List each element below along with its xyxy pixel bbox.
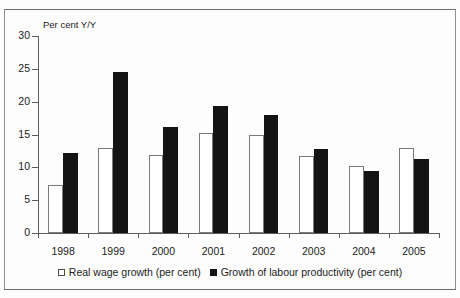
bar-2001-labour-productivity [213,106,228,233]
bar-1998-labour-productivity [63,153,78,233]
x-axis-tick-label: 2003 [289,245,339,257]
x-axis-tick [138,233,139,238]
x-axis-tick-label: 1999 [88,245,138,257]
bar-2002-real-wage-growth [249,135,264,233]
x-axis-tick [339,233,340,238]
bar-1999-labour-productivity [113,72,128,233]
bar-2002-labour-productivity [264,115,279,233]
y-axis-tick-label: 5 [8,193,30,205]
bar-2004-labour-productivity [364,171,379,233]
open-square-icon [58,269,65,276]
bar-1998-real-wage-growth [48,185,63,233]
x-axis-tick [38,233,39,238]
bar-2003-real-wage-growth [299,156,314,233]
legend-label-labour-productivity: Growth of labour productivity (per cent) [221,266,403,278]
x-axis-tick [188,233,189,238]
x-axis-tick [289,233,290,238]
bar-2005-real-wage-growth [399,148,414,233]
x-axis-tick [439,233,440,238]
x-axis-tick-label: 2000 [138,245,188,257]
legend-item-real-wage-growth: Real wage growth (per cent) [58,266,201,278]
legend-label-real-wage-growth: Real wage growth (per cent) [69,266,201,278]
chart-plot-area: Per cent Y/Y 051015202530 19981999200020… [0,0,460,298]
chart-legend: Real wage growth (per cent) Growth of la… [0,266,460,278]
bar-2001-real-wage-growth [199,133,214,233]
legend-item-labour-productivity: Growth of labour productivity (per cent) [210,266,403,278]
y-axis-tick-label: 25 [8,62,30,74]
figure-panel: Per cent Y/Y 051015202530 19981999200020… [0,0,460,298]
x-axis-tick [239,233,240,238]
x-axis-tick-label: 2001 [188,245,238,257]
y-axis-tick-label: 10 [8,160,30,172]
y-axis-title: Per cent Y/Y [43,19,96,30]
bar-2000-real-wage-growth [149,155,164,233]
bar-2003-labour-productivity [314,149,329,233]
y-axis-tick-label: 30 [8,29,30,41]
x-axis-tick-label: 1998 [38,245,88,257]
y-axis-tick-label: 0 [8,226,30,238]
bar-series-layer [38,36,439,233]
x-axis-tick-label: 2004 [339,245,389,257]
filled-square-icon [210,269,217,276]
bar-2005-labour-productivity [414,159,429,233]
x-axis-tick-label: 2005 [389,245,439,257]
x-axis-tick-label: 2002 [239,245,289,257]
bar-1999-real-wage-growth [98,148,113,233]
bar-2000-labour-productivity [163,127,178,233]
x-axis-tick [88,233,89,238]
y-axis-tick-label: 15 [8,128,30,140]
y-axis-tick-label: 20 [8,95,30,107]
bar-2004-real-wage-growth [349,166,364,233]
x-axis-tick [389,233,390,238]
